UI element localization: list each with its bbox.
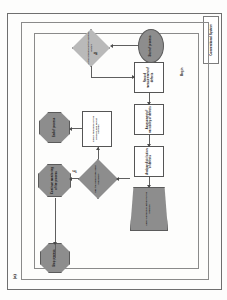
flowchart-canvas: Stop process Continue monitoring of the … bbox=[12, 18, 215, 283]
node-step-3[interactable]: Analyse distribution of defects bbox=[134, 146, 164, 177]
node-step-1[interactable]: Record measurement of defects bbox=[134, 62, 164, 93]
node-step-2[interactable]: Assessment of variability of defects bbox=[134, 104, 164, 135]
edge-decision2-arrow bbox=[116, 177, 119, 181]
edge-decision1-drop bbox=[91, 77, 134, 78]
edge-step1-arrow bbox=[132, 76, 135, 80]
edge-label-no: No bbox=[94, 51, 97, 54]
routing-frame-inner bbox=[34, 33, 199, 269]
edge-start-arrow bbox=[110, 44, 113, 48]
edge-start-to-decision1 bbox=[112, 45, 138, 46]
node-step-4[interactable]: Apply corrective action to the process bbox=[130, 187, 168, 231]
edge-return-rail bbox=[55, 198, 56, 258]
node-step-1-label: Record measurement of defects bbox=[135, 63, 163, 92]
edge-note-to-end1 bbox=[71, 128, 82, 129]
node-start[interactable]: Start of process bbox=[138, 29, 164, 63]
edge-step4-to-decision2 bbox=[118, 178, 130, 179]
node-note[interactable]: Check tolerance of the process and adjus… bbox=[82, 111, 112, 147]
edge-end3-arrow bbox=[53, 242, 57, 245]
edge-step3-arrow bbox=[147, 144, 151, 147]
edge-step2-arrow bbox=[147, 102, 151, 105]
diagram-viewport: Stop process Continue monitoring of the … bbox=[12, 18, 215, 283]
node-end-2-label: Continue monitoring of the process bbox=[39, 165, 70, 196]
edge-note-arrow bbox=[96, 147, 100, 150]
edge-end1-arrow bbox=[69, 127, 72, 131]
edge-end2-arrow bbox=[69, 177, 72, 181]
node-end-1-label: End of process bbox=[40, 113, 69, 142]
node-start-label: Start of process bbox=[139, 30, 163, 62]
edge-label-yes: Yes bbox=[72, 169, 76, 172]
node-note-label: Check tolerance of the process and adjus… bbox=[83, 112, 111, 146]
node-step-3-label: Analyse distribution of defects bbox=[135, 147, 163, 176]
node-step-2-label: Assessment of variability of defects bbox=[135, 105, 163, 134]
figure-page: Conventional System (a) Begin Stop proce… bbox=[0, 0, 227, 300]
edge-step4-arrow bbox=[147, 185, 151, 188]
edge-decision2-to-end2 bbox=[71, 178, 79, 179]
node-step-4-label: Apply corrective action to the process bbox=[131, 188, 167, 230]
